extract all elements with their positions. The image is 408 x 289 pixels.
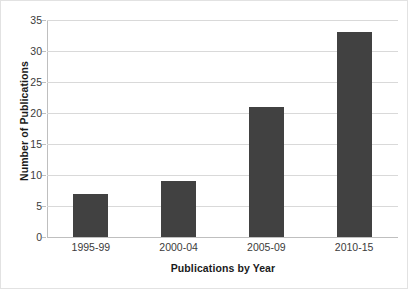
bar-chart-figure: Number of Publications 05101520253035 19… — [0, 0, 408, 289]
y-tick-label: 15 — [12, 139, 42, 149]
y-tick-mark — [42, 51, 46, 52]
y-axis-tick-labels: 05101520253035 — [9, 20, 42, 237]
x-tick-label: 2005-09 — [223, 241, 311, 253]
x-axis-title: Publications by Year — [45, 262, 401, 274]
bar — [161, 181, 196, 237]
y-tick-mark — [42, 82, 46, 83]
gridline — [47, 20, 398, 21]
y-tick-label: 25 — [12, 77, 42, 87]
x-tick-label: 2010-15 — [310, 241, 398, 253]
y-tick-label: 20 — [12, 108, 42, 118]
x-tick-label: 2000-04 — [135, 241, 223, 253]
y-tick-label: 0 — [12, 232, 42, 242]
plot-area — [47, 20, 398, 237]
y-tick-mark — [42, 237, 46, 238]
y-tick-mark — [42, 144, 46, 145]
bar — [73, 194, 108, 237]
bar — [249, 107, 284, 237]
x-axis-tick-labels: 1995-992000-042005-092010-15 — [47, 241, 398, 257]
y-tick-mark — [42, 175, 46, 176]
y-tick-label: 30 — [12, 46, 42, 56]
bar — [337, 32, 372, 237]
y-tick-label: 35 — [12, 15, 42, 25]
y-tick-mark — [42, 113, 46, 114]
y-tick-label: 5 — [12, 201, 42, 211]
axis-baseline — [47, 237, 398, 238]
y-tick-mark — [42, 20, 46, 21]
x-tick-label: 1995-99 — [47, 241, 135, 253]
y-tick-label: 10 — [12, 170, 42, 180]
y-tick-mark — [42, 206, 46, 207]
